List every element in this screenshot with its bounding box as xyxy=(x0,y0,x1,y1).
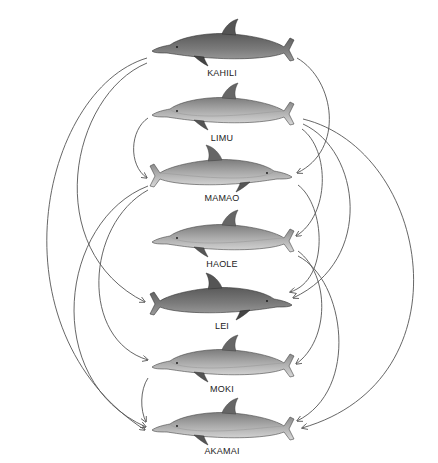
dolphin-moki xyxy=(152,335,294,382)
dolphin-lei xyxy=(150,273,292,320)
arrow-kahili-to-mamao xyxy=(297,58,329,173)
label-kahili: KAHILI xyxy=(207,68,237,78)
dolphin-kahili xyxy=(152,19,294,66)
label-lei: LEI xyxy=(215,321,229,331)
label-limu: LIMU xyxy=(211,133,233,143)
arrow-kahili-to-akamai xyxy=(47,58,147,430)
right-arrows xyxy=(290,58,414,428)
arrow-limu-to-haole xyxy=(296,129,322,236)
label-moki: MOKI xyxy=(210,384,234,394)
arrow-limu-to-akamai xyxy=(302,119,414,428)
arrow-moki-to-akamai xyxy=(142,378,148,422)
arrow-kahili-to-lei xyxy=(77,63,147,302)
label-haole: HAOLE xyxy=(206,259,238,269)
arrow-limu-to-mamao xyxy=(134,118,148,178)
arrow-mamao-to-akamai xyxy=(74,186,148,427)
arrow-haole-to-moki xyxy=(296,251,322,364)
arrow-mamao-to-moki xyxy=(99,190,148,360)
arrow-mamao-to-lei xyxy=(290,185,319,292)
dolphin-haole xyxy=(152,210,294,257)
label-akamai: AKAMAI xyxy=(204,446,239,456)
dolphin-limu xyxy=(152,83,294,130)
dolphin-akamai xyxy=(152,398,294,445)
label-mamao: MAMAO xyxy=(204,193,239,203)
dolphin-mamao xyxy=(150,145,292,192)
left-arrows xyxy=(47,58,148,430)
